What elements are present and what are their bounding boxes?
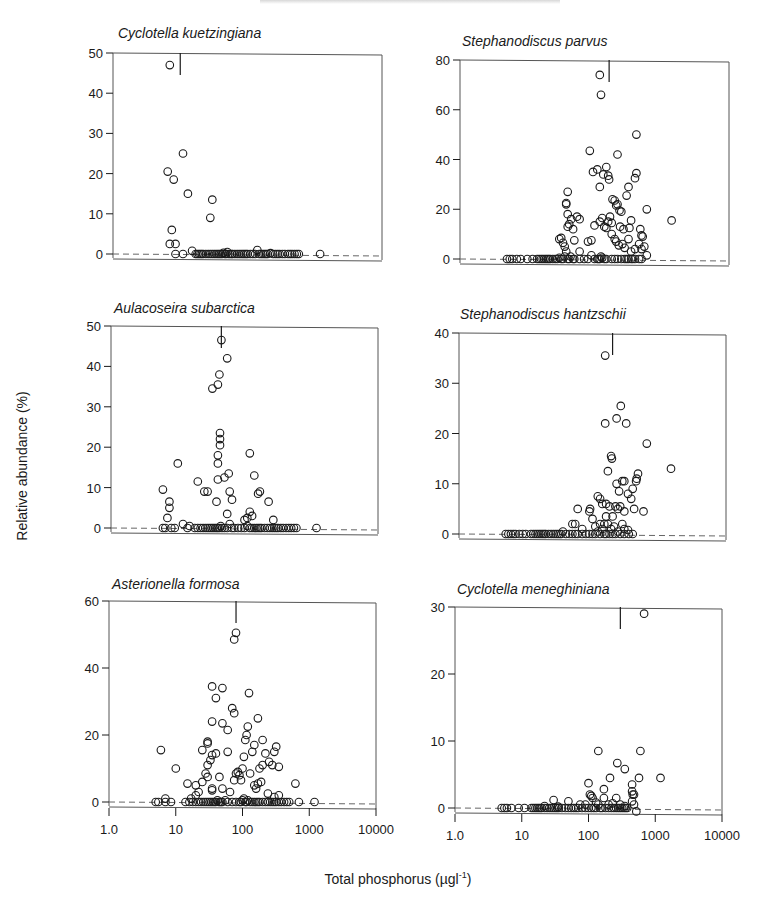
data-point [585,779,593,787]
data-point [614,759,622,767]
panel-title: Cyclotella meneghiniana [457,581,610,597]
x-tick-label: 1000 [641,828,670,843]
y-tick-label: 20 [431,667,445,682]
y-tick-label: 0 [438,801,445,816]
x-axis-label-close: ) [467,871,472,887]
y-tick-label: 30 [431,600,445,615]
x-tick-label: 1.0 [446,828,464,843]
y-tick-label: 10 [431,734,445,749]
x-tick-label: 10 [515,828,529,843]
y-axis-label: Relative abundance (%) [14,391,30,540]
data-point [621,765,629,773]
data-point [600,794,608,802]
data-point [637,747,645,755]
x-axis-label: Total phosphorus (µgl-1) [325,870,472,887]
x-axis-label-exponent: -1 [459,870,467,880]
plot-frame [455,607,722,814]
data-point [595,747,603,755]
data-point [550,796,558,804]
x-axis-label-main: Total phosphorus (µgl [325,871,459,887]
data-point [640,610,648,618]
data-point [606,774,614,782]
x-tick-label: 10000 [704,828,740,843]
data-point [657,774,665,782]
x-tick-label: 100 [578,828,600,843]
data-point [600,785,608,793]
scatter-plot: 01020301.010100100010000 [0,0,764,903]
data-point [635,774,643,782]
